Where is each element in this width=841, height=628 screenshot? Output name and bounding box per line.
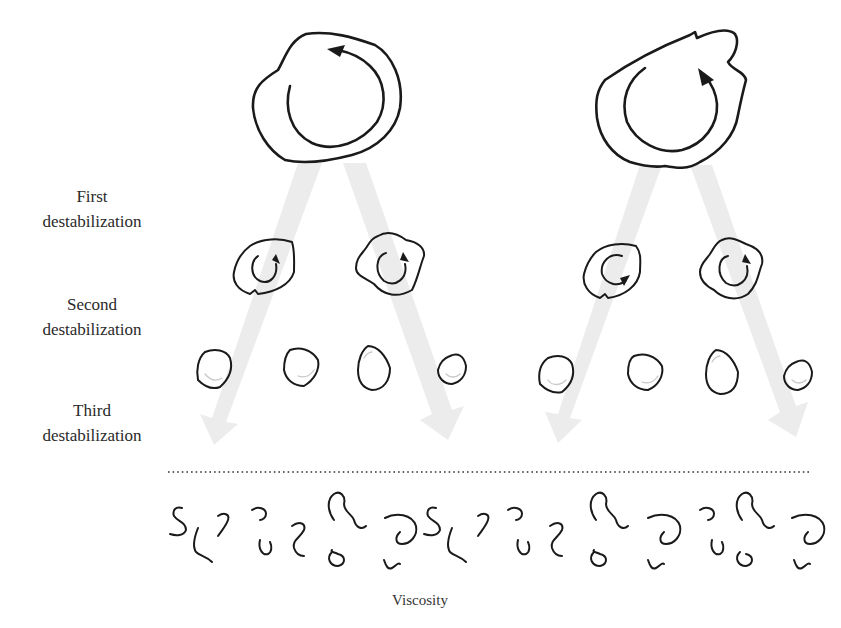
stage-label-second-line2: destabilization — [12, 317, 172, 342]
rotation-arrowhead-icon — [400, 252, 409, 262]
diagram-canvas: First destabilization Second destabiliza… — [0, 0, 841, 628]
stage-label-first: First destabilization — [12, 184, 172, 234]
stage-label-second: Second destabilization — [12, 292, 172, 342]
stage-label-third-line1: Third — [12, 398, 172, 423]
eddy-outline — [253, 33, 401, 162]
stage-label-second-line1: Second — [12, 292, 172, 317]
rotation-arrowhead-icon — [620, 275, 630, 286]
squiggle-set-2 — [424, 493, 680, 569]
stage-label-third: Third destabilization — [12, 398, 172, 448]
cascade-arrow-left-outer — [200, 163, 322, 445]
rotation-arrowhead-icon — [327, 45, 345, 57]
small-eddy — [358, 346, 390, 390]
small-eddy — [784, 360, 812, 390]
rotation-arrow-path — [288, 50, 384, 147]
eddy-outline — [596, 31, 746, 168]
small-eddy — [284, 348, 318, 386]
squiggle-set-2-tail — [700, 493, 824, 569]
viscosity-caption: Viscosity — [360, 592, 480, 609]
dissipation-squiggles — [170, 493, 824, 569]
large-eddy-right — [596, 31, 746, 168]
small-eddy — [628, 354, 662, 390]
small-eddy — [539, 356, 573, 393]
small-eddy — [706, 350, 738, 394]
squiggle-set-1 — [170, 493, 416, 569]
stage-label-third-line2: destabilization — [12, 423, 172, 448]
stage-label-first-line1: First — [12, 184, 172, 209]
cascade-arrow-right-inner — [690, 165, 808, 437]
cascade-arrows — [200, 163, 808, 445]
stage-label-first-line2: destabilization — [12, 209, 172, 234]
cascade-arrow-right-outer — [545, 165, 662, 443]
large-eddy-left — [253, 33, 401, 162]
cascade-arrow-left-inner — [343, 163, 464, 440]
small-eddies — [197, 346, 812, 394]
small-eddy — [438, 354, 466, 384]
